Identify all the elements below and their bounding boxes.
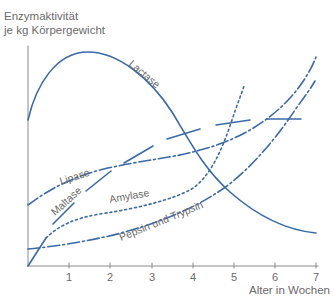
svg-text:2: 2 bbox=[107, 271, 113, 283]
svg-text:7: 7 bbox=[313, 271, 319, 283]
svg-text:4: 4 bbox=[190, 271, 196, 283]
svg-text:6: 6 bbox=[272, 271, 278, 283]
series-amylase bbox=[46, 86, 244, 238]
series-pepsin-trypsin bbox=[28, 81, 315, 249]
series-amylase-start bbox=[28, 238, 46, 266]
svg-text:3: 3 bbox=[149, 271, 155, 283]
label-amylase: Amylase bbox=[108, 186, 150, 205]
label-lactase: Lactase bbox=[127, 57, 163, 90]
x-tick-labels: 1 2 3 4 5 6 7 bbox=[66, 271, 319, 283]
svg-text:5: 5 bbox=[231, 271, 237, 283]
svg-text:1: 1 bbox=[66, 271, 72, 283]
label-pepsin-trypsin: Pepsin und Trypsin bbox=[117, 198, 204, 243]
x-axis-label: Alter in Wochen bbox=[249, 284, 330, 296]
chart-plot: 1 2 3 4 5 6 7 Lactase Lipase Maltase Amy… bbox=[0, 0, 334, 304]
